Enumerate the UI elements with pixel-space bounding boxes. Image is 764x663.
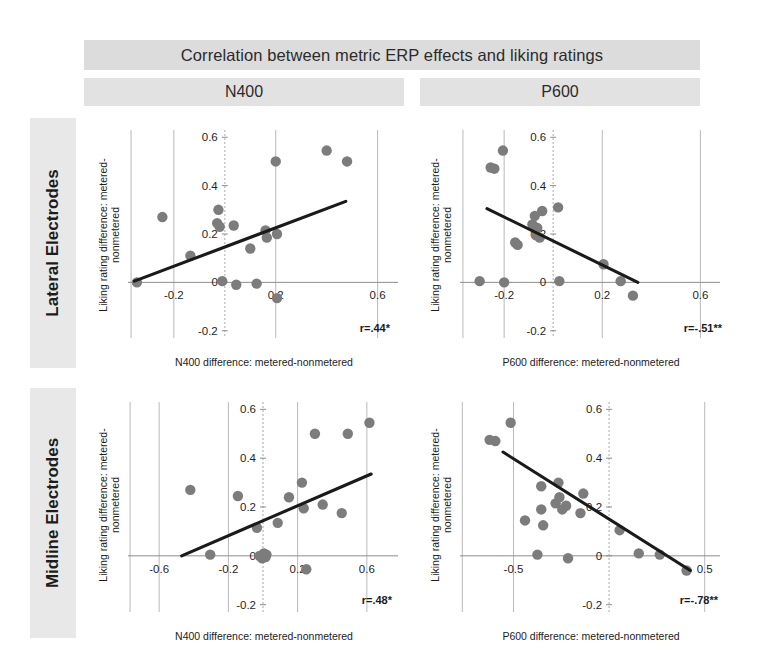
- plot-area: -0.200.20.40.6-0.20.20.6: [460, 130, 720, 338]
- y-axis-label: Liking rating difference: metered-nonmet…: [92, 140, 126, 330]
- y-axis-label: Liking rating difference: metered-nonmet…: [92, 410, 126, 600]
- svg-text:0.2: 0.2: [240, 501, 256, 513]
- svg-text:0.6: 0.6: [359, 563, 375, 575]
- svg-text:0.6: 0.6: [240, 403, 256, 415]
- correlation-annotation: r=.48*: [362, 594, 392, 606]
- plot-area: -0.200.20.40.6-0.6-0.20.20.6: [128, 402, 398, 612]
- scatter-panel-midline-n400: Liking rating difference: metered-nonmet…: [92, 390, 402, 642]
- svg-text:0.4: 0.4: [240, 452, 257, 464]
- svg-text:0.2: 0.2: [202, 228, 218, 240]
- correlation-annotation: r=.44*: [360, 322, 390, 334]
- plot-area: -0.200.20.40.6-0.50.5: [460, 402, 720, 612]
- x-axis-label: N400 difference: metered-nonmetered: [126, 356, 402, 368]
- svg-text:0: 0: [211, 276, 217, 288]
- svg-text:0.6: 0.6: [586, 403, 602, 415]
- y-axis-label: Liking rating difference: metered-nonmet…: [424, 410, 458, 600]
- svg-text:-0.2: -0.2: [494, 289, 514, 301]
- svg-text:-0.5: -0.5: [504, 563, 524, 575]
- plot-area: -0.200.20.40.6-0.20.20.6: [128, 130, 398, 338]
- svg-text:-0.6: -0.6: [149, 563, 169, 575]
- column-header-p600: P600: [420, 78, 700, 106]
- svg-text:-0.2: -0.2: [198, 325, 218, 337]
- svg-text:-0.2: -0.2: [164, 289, 184, 301]
- figure-root: Correlation between metric ERP effects a…: [0, 0, 764, 663]
- svg-text:0.4: 0.4: [586, 452, 603, 464]
- svg-text:0: 0: [596, 550, 602, 562]
- row-label-midline-electrodes: Midline Electrodes: [30, 388, 76, 638]
- svg-text:-0.2: -0.2: [218, 563, 238, 575]
- svg-text:0: 0: [540, 276, 546, 288]
- svg-text:0.4: 0.4: [530, 180, 547, 192]
- svg-text:0.2: 0.2: [594, 289, 610, 301]
- svg-text:-0.2: -0.2: [526, 325, 546, 337]
- figure-title: Correlation between metric ERP effects a…: [84, 40, 700, 70]
- correlation-annotation: r=-.78**: [680, 594, 718, 606]
- scatter-panel-lateral-n400: Liking rating difference: metered-nonmet…: [92, 118, 402, 368]
- svg-text:0.6: 0.6: [202, 131, 218, 143]
- svg-text:0.6: 0.6: [530, 131, 546, 143]
- svg-text:0.5: 0.5: [697, 563, 713, 575]
- y-axis-label: Liking rating difference: metered-nonmet…: [424, 140, 458, 330]
- x-axis-label: P600 difference: metered-nonmetered: [458, 630, 724, 642]
- svg-text:-0.2: -0.2: [236, 599, 256, 611]
- column-header-n400: N400: [84, 78, 404, 106]
- row-label-lateral-electrodes: Lateral Electrodes: [30, 118, 76, 368]
- svg-text:0.4: 0.4: [202, 180, 219, 192]
- x-axis-label: N400 difference: metered-nonmetered: [126, 630, 402, 642]
- correlation-annotation: r=-.51**: [684, 322, 722, 334]
- scatter-panel-midline-p600: Liking rating difference: metered-nonmet…: [424, 390, 724, 642]
- svg-text:0.6: 0.6: [692, 289, 708, 301]
- svg-text:0.6: 0.6: [370, 289, 386, 301]
- svg-text:-0.2: -0.2: [582, 599, 602, 611]
- x-axis-label: P600 difference: metered-nonmetered: [458, 356, 724, 368]
- scatter-panel-lateral-p600: Liking rating difference: metered-nonmet…: [424, 118, 724, 368]
